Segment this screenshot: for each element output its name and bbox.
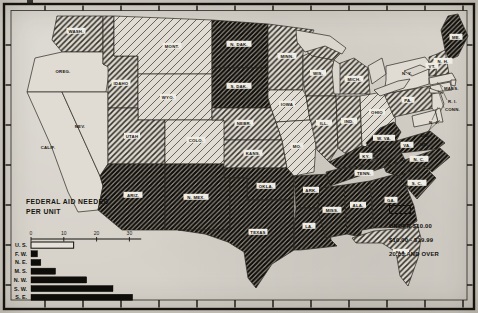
state-ind (336, 96, 362, 154)
bar-category-label: U. S. (15, 242, 27, 248)
state-label-mass: MASS. (444, 86, 459, 91)
scan-artifact (27, 0, 33, 5)
state-label-calif: CALIF. (41, 145, 56, 150)
state-label-sc: S. C. (412, 181, 423, 186)
state-label-va: VA. (403, 143, 410, 148)
chart-axis-label: 30 (127, 230, 133, 236)
map-legend: NO AIDUNDER $10.00$10.00 - $19.9920.00 A… (389, 205, 439, 261)
state-label-del: DEL. (421, 133, 432, 138)
state-label-nc: N. C. (414, 157, 425, 162)
state-label-minn: MINN. (280, 54, 293, 59)
legend-row-light: UNDER $10.00 (389, 219, 439, 233)
state-label-wva: W. VA. (377, 136, 391, 141)
state-label-nj: N. J. (429, 120, 439, 125)
state-label-md: MD. (420, 142, 428, 147)
state-label-conn: CONN. (445, 107, 460, 112)
state-label-texas: TEXAS (250, 230, 265, 235)
state-label-ohio: OHIO (371, 110, 383, 115)
legend-swatch-fill (390, 206, 411, 214)
bar-category-label: N. E. (15, 259, 27, 265)
bar-chart: 0102030U. S.F. W.N. E.M. S.N. W.S. W.S. … (14, 230, 141, 300)
state-label-ark: ARK. (305, 188, 316, 193)
state-label-mo: MO. (293, 144, 302, 149)
lake-huron (368, 58, 386, 84)
bar-fw (31, 251, 38, 257)
state-label-idaho: IDAHO (114, 81, 129, 86)
state-label-me: ME. (452, 35, 460, 40)
state-label-tenn: TENN. (357, 171, 371, 176)
state-label-ga: GA. (387, 198, 395, 203)
state-label-mont: MONT. (165, 44, 179, 49)
state-label-okla: OKLA. (259, 184, 273, 189)
bar-ne (31, 259, 41, 265)
bar-category-label: S. E. (15, 294, 27, 300)
legend-label-light: UNDER $10.00 (389, 223, 432, 229)
bar-sw (31, 286, 113, 292)
state-label-ala: ALA. (353, 203, 364, 208)
legend-label-medium: $10.00 - $19.99 (389, 237, 433, 243)
state-label-nh: N. H. (438, 59, 449, 64)
bar-category-label: F. W. (15, 251, 27, 257)
state-label-utah: UTAH (126, 134, 138, 139)
state-label-ind: IND. (344, 119, 353, 124)
bar-category-label: S. W. (14, 286, 27, 292)
chart-axis-label: 20 (94, 230, 100, 236)
state-label-vt: VT. (429, 64, 436, 69)
state-label-iowa: IOWA (281, 102, 293, 107)
state-label-ndak: N. DAK. (230, 42, 247, 47)
state-label-miss: MISS. (326, 208, 339, 213)
bar-category-label: N. W. (14, 277, 28, 283)
bar-nw (31, 277, 87, 283)
chart-axis-label: 10 (61, 230, 67, 236)
state-label-wis: WIS. (313, 71, 323, 76)
state-ala (344, 181, 374, 237)
bar-se (31, 294, 133, 300)
state-label-ill: ILL. (320, 121, 328, 126)
state-label-nmex: N. MEX. (187, 195, 204, 200)
state-label-sdak: S. DAK. (230, 84, 247, 89)
us-choropleth-map: WASH.OREG.CALIF.NEV.IDAHOMONT.WYO.UTAHCO… (0, 0, 478, 313)
state-label-ny: N. Y. (402, 71, 412, 76)
legend-label-dark: 20.00 AND OVER (389, 251, 439, 257)
bar-category-label: M. S. (14, 268, 27, 274)
state-wash (52, 16, 103, 52)
state-label-pa: PA. (404, 98, 411, 103)
state-label-wyo: WYO. (162, 95, 174, 100)
legend-swatch-dark (389, 205, 411, 214)
legend-row-dark: 20.00 AND OVER (389, 247, 439, 261)
bar-us (31, 242, 74, 248)
state-label-colo: COLO. (189, 138, 204, 143)
state-label-mich: MICH. (347, 77, 360, 82)
map-title: FEDERAL AID NEEDED PER UNIT (26, 197, 136, 216)
state-label-nev: NEV. (75, 124, 85, 129)
state-label-oreg: OREG. (56, 69, 71, 74)
state-label-wash: WASH. (68, 29, 83, 34)
legend-row-medium: $10.00 - $19.99 (389, 233, 439, 247)
bar-ms (31, 268, 56, 274)
state-label-kans: KANS. (246, 151, 260, 156)
scanned-map-page: WASH.OREG.CALIF.NEV.IDAHOMONT.WYO.UTAHCO… (0, 0, 478, 313)
chart-axis-label: 0 (30, 230, 33, 236)
state-label-nebr: NEBR. (237, 121, 251, 126)
state-label-ky: KY. (362, 154, 369, 159)
state-label-ri: R. I. (448, 99, 457, 104)
state-label-la: LA. (305, 224, 313, 229)
